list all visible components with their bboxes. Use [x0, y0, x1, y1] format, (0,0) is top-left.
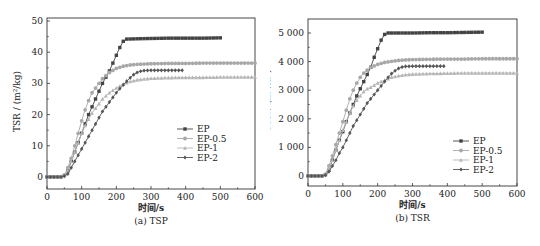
data-point-marker [212, 36, 215, 39]
figure-caption: (b) TSR [395, 213, 430, 223]
data-point-marker [173, 62, 177, 66]
data-point-marker [435, 31, 438, 34]
data-point-marker [477, 30, 480, 33]
data-point-marker [411, 31, 414, 34]
data-point-marker [428, 57, 432, 61]
data-point-marker [201, 61, 205, 65]
y-tick-label: 10 [32, 141, 44, 151]
data-point-marker [362, 71, 366, 75]
data-point-marker [359, 87, 362, 90]
data-point-marker [449, 31, 452, 34]
x-axis-title: 时间/s [138, 202, 164, 213]
x-tick-label: 500 [474, 189, 491, 199]
data-point-marker [432, 31, 435, 34]
data-point-marker [379, 62, 383, 66]
data-point-marker [160, 68, 163, 72]
data-point-marker [111, 88, 115, 92]
y-axis-title: TSR / (m²/m²) [270, 69, 272, 131]
y-tick-label: 0 [37, 172, 43, 182]
data-point-marker [132, 63, 136, 67]
data-point-marker [400, 65, 403, 69]
series-ep-1 [45, 75, 257, 179]
data-point-marker [149, 62, 153, 66]
data-point-marker [135, 37, 138, 40]
data-point-marker [348, 97, 352, 101]
data-point-marker [114, 67, 118, 71]
data-point-marker [428, 31, 431, 34]
y-tick-label: 5 000 [278, 28, 304, 38]
legend-item: EP-0.5 [177, 134, 227, 144]
data-point-marker [114, 86, 118, 90]
chart-panel-a: 010020030040050060001020304050时间/sTSR / … [0, 0, 270, 246]
data-point-marker [139, 69, 142, 73]
data-point-marker [418, 64, 421, 68]
data-point-marker [442, 64, 445, 68]
data-point-marker [146, 37, 149, 40]
legend-item: EP [177, 124, 210, 134]
data-point-marker [177, 36, 180, 39]
data-point-marker [94, 86, 98, 90]
data-point-marker [442, 57, 446, 61]
data-point-marker [400, 31, 403, 34]
x-tick-label: 0 [305, 189, 311, 199]
data-point-marker [153, 62, 157, 66]
data-point-marker [463, 57, 467, 61]
data-point-marker [393, 59, 397, 63]
legend-item: EP-2 [453, 165, 494, 175]
x-axis-title: 时间/s [399, 199, 425, 210]
data-point-marker [160, 37, 163, 40]
data-point-marker [484, 57, 488, 61]
data-point-marker [170, 62, 174, 66]
data-point-marker [351, 88, 355, 92]
data-point-marker [198, 61, 202, 65]
y-tick-label: 20 [32, 110, 44, 120]
data-point-marker [390, 59, 394, 63]
data-point-marker [414, 58, 418, 62]
data-point-marker [146, 62, 150, 66]
data-point-marker [170, 36, 173, 39]
data-point-marker [379, 38, 382, 41]
legend-label: EP-2 [197, 153, 218, 163]
data-point-marker [425, 31, 428, 34]
data-point-marker [390, 31, 393, 34]
data-point-marker [386, 31, 389, 34]
data-point-marker [372, 64, 376, 68]
y-tick-label: 3 000 [278, 85, 304, 95]
data-point-marker [198, 36, 201, 39]
data-point-marker [167, 68, 170, 72]
data-point-marker [508, 57, 512, 61]
data-point-marker [142, 62, 146, 66]
legend-marker [183, 155, 186, 159]
data-point-marker [505, 57, 509, 61]
data-point-marker [212, 61, 216, 65]
y-tick-label: 50 [32, 16, 44, 26]
y-axis-title: TSR / (m²/kg) [12, 71, 22, 132]
data-point-marker [222, 61, 226, 65]
x-tick-label: 400 [177, 192, 194, 202]
data-point-marker [166, 62, 170, 66]
data-point-marker [425, 57, 429, 61]
data-point-marker [425, 64, 428, 68]
data-point-marker [477, 57, 481, 61]
data-point-marker [421, 58, 425, 62]
data-point-marker [407, 31, 410, 34]
data-point-marker [376, 47, 379, 50]
data-point-marker [414, 64, 417, 68]
data-point-marker [218, 61, 222, 65]
chart-b-svg: 010020030040050060001 0002 0003 0004 000… [270, 0, 540, 246]
data-point-marker [108, 91, 112, 95]
data-point-marker [163, 37, 166, 40]
data-point-marker [125, 37, 128, 40]
data-point-marker [132, 37, 135, 40]
data-point-marker [180, 62, 184, 66]
legend-marker [183, 127, 186, 130]
data-point-marker [407, 58, 411, 62]
data-point-marker [414, 31, 417, 34]
data-point-marker [153, 68, 156, 72]
y-tick-label: 40 [32, 47, 44, 57]
data-point-marker [156, 68, 159, 72]
data-point-marker [365, 68, 369, 72]
data-point-marker [369, 85, 373, 89]
data-point-marker [383, 33, 386, 36]
chart-a-svg: 010020030040050060001020304050时间/sTSR / … [0, 0, 270, 246]
